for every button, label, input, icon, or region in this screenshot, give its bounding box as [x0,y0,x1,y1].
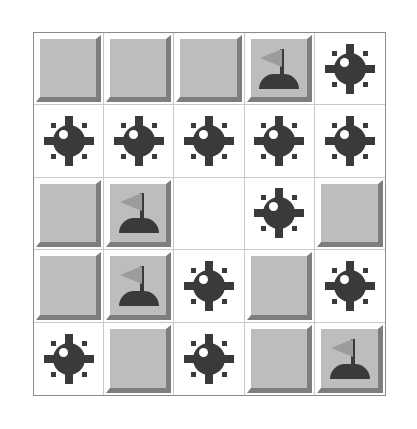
flag-mound [119,291,159,306]
mine-dot [363,51,368,56]
mine-dot [292,154,297,159]
mine-dot [222,299,227,304]
covered-tile[interactable] [36,35,101,102]
mine-body [193,125,225,157]
mine-dot [222,154,227,159]
grid-cell-r5c2[interactable] [104,323,174,395]
mine-dot [363,299,368,304]
mine-icon [44,334,94,384]
mine-dot [332,123,337,128]
mine-icon [44,116,94,166]
grid-cell-r2c5[interactable] [315,105,385,177]
mine-dot [261,226,266,231]
mine-dot [332,51,337,56]
mine-dot [191,372,196,377]
mine-dot [191,299,196,304]
mine-highlight [129,130,138,139]
covered-tile[interactable] [247,325,312,393]
grid-cell-r5c4[interactable] [245,323,315,395]
grid-cell-r1c1[interactable] [34,33,104,105]
mine-dot [121,123,126,128]
mine-body [334,53,366,85]
grid-cell-r4c3[interactable] [174,250,244,322]
grid-cell-r2c1[interactable] [34,105,104,177]
mine-highlight [340,275,349,284]
mine-dot [82,123,87,128]
mine-icon [254,188,304,238]
flag-mound [330,364,370,379]
grid-cell-r4c1[interactable] [34,250,104,322]
grid-cell-r3c5[interactable] [315,178,385,250]
grid-cell-r1c4[interactable] [245,33,315,105]
covered-tile[interactable] [106,325,171,393]
mine-dot [222,372,227,377]
flag-icon [327,338,373,380]
mine-dot [332,154,337,159]
mine-body [193,343,225,375]
flag-pennant [331,339,353,357]
mine-dot [363,154,368,159]
grid-cell-r3c1[interactable] [34,178,104,250]
mine-icon [325,44,375,94]
mine-highlight [340,130,349,139]
mine-icon [325,116,375,166]
minesweeper-board[interactable] [33,32,386,396]
mine-dot [222,341,227,346]
revealed-empty-cell [174,178,243,249]
mine-dot [363,82,368,87]
mine-highlight [199,130,208,139]
mine-body [193,270,225,302]
grid-cell-r5c3[interactable] [174,323,244,395]
mine-icon [184,116,234,166]
mine-body [53,125,85,157]
grid-cell-r1c3[interactable] [174,33,244,105]
grid-cell-r3c4[interactable] [245,178,315,250]
mine-dot [51,123,56,128]
grid-cell-r4c2[interactable] [104,250,174,322]
grid-cell-r4c4[interactable] [245,250,315,322]
mine-dot [82,154,87,159]
covered-tile[interactable] [247,252,312,319]
mine-highlight [59,348,68,357]
covered-tile[interactable] [36,252,101,319]
mine-dot [191,268,196,273]
mine-dot [261,123,266,128]
grid-cell-r1c2[interactable] [104,33,174,105]
mine-dot [121,154,126,159]
mine-dot [363,123,368,128]
grid-cell-r5c5[interactable] [315,323,385,395]
covered-tile[interactable] [176,35,241,102]
mine-dot [292,123,297,128]
mine-dot [191,154,196,159]
mine-dot [51,154,56,159]
mine-dot [82,372,87,377]
mine-dot [191,123,196,128]
covered-tile[interactable] [106,35,171,102]
mine-dot [332,82,337,87]
covered-tile[interactable] [317,180,383,247]
flag-pennant [260,49,282,67]
mine-dot [191,341,196,346]
mine-dot [152,123,157,128]
grid-cell-r2c4[interactable] [245,105,315,177]
mine-dot [261,154,266,159]
grid-cell-r3c2[interactable] [104,178,174,250]
mine-icon [114,116,164,166]
flag-icon [116,192,162,234]
grid-cell-r1c5[interactable] [315,33,385,105]
mine-dot [51,372,56,377]
grid-cell-r2c2[interactable] [104,105,174,177]
flag-icon [116,265,162,307]
grid-cell-r5c1[interactable] [34,323,104,395]
grid-cell-r3c3[interactable] [174,178,244,250]
mine-body [123,125,155,157]
flag-mound [259,74,299,89]
mine-dot [292,226,297,231]
grid-cell-r2c3[interactable] [174,105,244,177]
flag-mound [119,218,159,233]
covered-tile[interactable] [36,180,101,247]
mine-dot [332,268,337,273]
mine-body [53,343,85,375]
grid-cell-r4c5[interactable] [315,250,385,322]
mine-highlight [199,275,208,284]
